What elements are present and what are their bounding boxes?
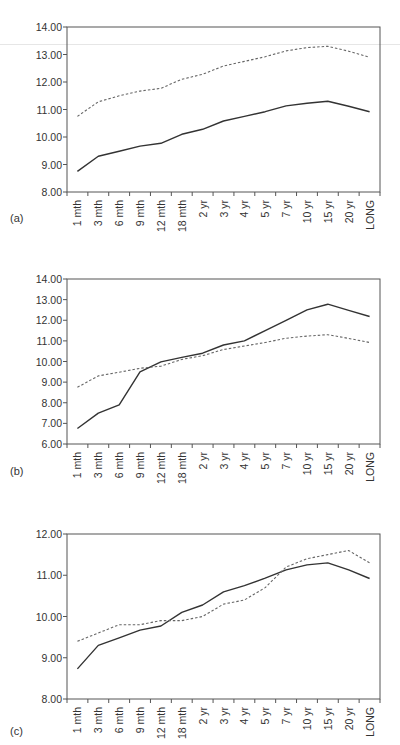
x-tick-label: 4 yr xyxy=(238,200,250,218)
x-tick-label: 3 yr xyxy=(218,200,230,218)
x-tick-label: 15 yr xyxy=(322,706,334,730)
panel-label-a: (a) xyxy=(10,212,23,224)
series-line-dashed xyxy=(77,551,369,642)
chart-b-svg: 6.007.008.009.0010.0011.0012.0013.0014.0… xyxy=(0,252,400,502)
x-tick-label: 5 yr xyxy=(259,707,271,725)
x-tick-label: 20 yr xyxy=(343,706,355,730)
y-tick-label: 12.00 xyxy=(36,314,62,326)
y-tick-label: 6.00 xyxy=(42,438,63,450)
y-tick-label: 13.00 xyxy=(36,294,62,306)
chart-c-svg: 8.009.0010.0011.0012.001 mth3 mth6 mth9 … xyxy=(0,507,400,745)
y-tick-label: 9.00 xyxy=(42,159,63,171)
x-tick-label: 1 mth xyxy=(71,452,83,478)
x-tick-label: 6 mth xyxy=(113,707,125,733)
x-tick-label: 7 yr xyxy=(280,707,292,725)
series-line-solid xyxy=(77,563,369,669)
x-tick-label: 3 yr xyxy=(218,707,230,725)
x-tick-label: 20 yr xyxy=(343,199,355,223)
plot-frame xyxy=(67,27,380,192)
chart-panel-c: 8.009.0010.0011.0012.001 mth3 mth6 mth9 … xyxy=(0,507,400,745)
x-tick-label: 9 mth xyxy=(134,707,146,733)
x-tick-label: 18 mth xyxy=(176,200,188,232)
x-tick-label: 10 yr xyxy=(301,199,313,223)
x-tick-label: 18 mth xyxy=(176,707,188,739)
x-tick-label: 9 mth xyxy=(134,200,146,226)
y-tick-label: 10.00 xyxy=(36,131,62,143)
x-tick-label: 7 yr xyxy=(280,452,292,470)
x-tick-label: 2 yr xyxy=(197,707,209,725)
x-tick-label: 15 yr xyxy=(322,451,334,475)
y-tick-label: 7.00 xyxy=(42,417,63,429)
y-tick-label: 14.00 xyxy=(36,273,62,285)
x-tick-label: LONG xyxy=(364,707,376,737)
y-tick-label: 9.00 xyxy=(42,652,63,664)
x-tick-label: 2 yr xyxy=(197,452,209,470)
y-tick-label: 11.00 xyxy=(37,104,63,116)
x-tick-label: 1 mth xyxy=(71,200,83,226)
panel-label-b: (b) xyxy=(10,465,23,477)
chart-panel-b: 6.007.008.009.0010.0011.0012.0013.0014.0… xyxy=(0,252,400,502)
x-tick-label: 15 yr xyxy=(322,199,334,223)
y-tick-label: 9.00 xyxy=(42,376,63,388)
x-tick-label: 3 mth xyxy=(92,452,104,478)
x-tick-label: 6 mth xyxy=(113,452,125,478)
x-tick-label: 12 mth xyxy=(155,707,167,739)
y-tick-label: 8.00 xyxy=(42,186,63,198)
y-tick-label: 11.00 xyxy=(37,335,63,347)
y-tick-label: 10.00 xyxy=(36,611,62,623)
y-tick-label: 8.00 xyxy=(42,693,63,705)
y-tick-label: 13.00 xyxy=(36,49,62,61)
y-tick-label: 12.00 xyxy=(36,76,62,88)
panel-label-c: (c) xyxy=(10,725,23,737)
x-tick-label: 20 yr xyxy=(343,451,355,475)
chart-a-svg: 8.009.0010.0011.0012.0013.0014.001 mth3 … xyxy=(0,0,400,250)
x-tick-label: LONG xyxy=(364,200,376,230)
x-tick-label: 12 mth xyxy=(155,452,167,484)
x-tick-label: 5 yr xyxy=(259,200,271,218)
x-tick-label: 5 yr xyxy=(259,452,271,470)
x-tick-label: 10 yr xyxy=(301,706,313,730)
x-tick-label: 7 yr xyxy=(280,200,292,218)
y-tick-label: 12.00 xyxy=(36,528,62,540)
chart-panel-a: 8.009.0010.0011.0012.0013.0014.001 mth3 … xyxy=(0,0,400,250)
x-tick-label: 10 yr xyxy=(301,451,313,475)
y-tick-label: 8.00 xyxy=(42,397,63,409)
x-tick-label: 12 mth xyxy=(155,200,167,232)
x-tick-label: 3 yr xyxy=(218,452,230,470)
x-tick-label: 18 mth xyxy=(176,452,188,484)
x-tick-label: 4 yr xyxy=(238,707,250,725)
y-tick-label: 14.00 xyxy=(36,21,62,33)
x-tick-label: 6 mth xyxy=(113,200,125,226)
plot-frame xyxy=(67,279,380,444)
y-tick-label: 10.00 xyxy=(36,356,62,368)
series-line-solid xyxy=(77,304,369,428)
x-tick-label: 2 yr xyxy=(197,200,209,218)
series-line-solid xyxy=(77,101,369,171)
x-tick-label: 4 yr xyxy=(238,452,250,470)
x-tick-label: 9 mth xyxy=(134,452,146,478)
x-tick-label: 3 mth xyxy=(92,707,104,733)
x-tick-label: 3 mth xyxy=(92,200,104,226)
series-line-dashed xyxy=(77,335,369,388)
x-tick-label: LONG xyxy=(364,452,376,482)
series-line-dashed xyxy=(77,46,369,116)
plot-frame xyxy=(67,534,380,699)
y-tick-label: 11.00 xyxy=(37,569,63,581)
x-tick-label: 1 mth xyxy=(71,707,83,733)
